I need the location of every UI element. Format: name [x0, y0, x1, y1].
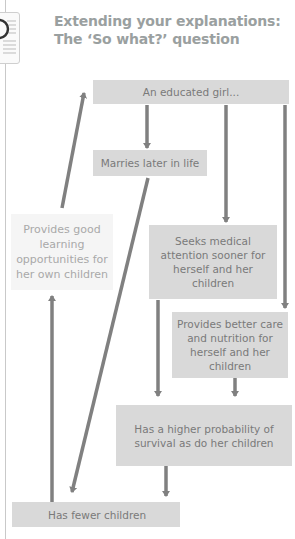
node-learning-opportunities: Provides good learning opportunities for… [11, 214, 113, 290]
node-better-care: Provides better care and nutrition for h… [172, 312, 288, 378]
node-higher-survival: Has a higher probability of survival as … [116, 405, 292, 466]
node-seeks-medical: Seeks medical attention sooner for herse… [149, 225, 277, 299]
node-marries-later: Marries later in life [93, 150, 207, 176]
node-fewer-children: Has fewer children [12, 502, 180, 527]
arrow-learning-to-educated [62, 93, 84, 208]
node-educated-girl: An educated girl... [93, 80, 289, 104]
